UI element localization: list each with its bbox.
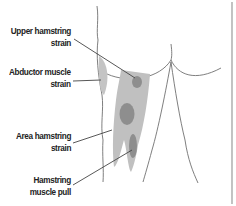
cleft-line [171, 44, 172, 60]
label-area-hamstring-strain: Area hamstring strain [16, 130, 71, 154]
abductor-shade [99, 56, 108, 95]
label-line: Area hamstring [16, 130, 71, 142]
label-upper-hamstring-strain: Upper hamstring strain [11, 25, 71, 49]
outer-thigh-outline [97, 6, 103, 182]
label-line: strain [16, 142, 71, 154]
inner-right-thigh-outline [171, 62, 198, 183]
label-line: Upper hamstring [11, 25, 71, 37]
leader-abductor [73, 80, 101, 81]
label-abductor-muscle-strain: Abductor muscle strain [9, 66, 71, 90]
label-line: strain [9, 78, 71, 90]
right-buttock-curve [171, 60, 221, 76]
leader-area-hamstring [73, 130, 112, 143]
upper-hamstring-spot [132, 76, 142, 88]
muscle-pull-spot [129, 134, 137, 158]
label-line: Hamstring [30, 174, 71, 186]
label-hamstring-muscle-pull: Hamstring muscle pull [30, 174, 71, 198]
label-line: Abductor muscle [9, 66, 71, 78]
label-line: muscle pull [30, 186, 71, 198]
label-line: strain [11, 37, 71, 49]
anatomy-figure: Upper hamstring strain Abductor muscle s… [0, 0, 236, 206]
area-hamstring-spot [120, 103, 135, 125]
